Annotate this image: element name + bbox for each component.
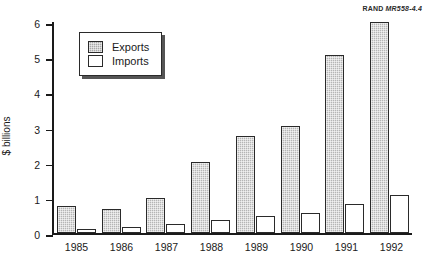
x-axis-label-1987: 1987 [144,241,189,253]
y-axis-tick-label: 2 [34,159,40,170]
y-axis-tick-label: 1 [34,195,40,206]
x-axis-labels: 19851986198719881989199019911992 [54,241,414,253]
bar-group [188,22,233,233]
bar-imports-1992 [390,195,409,233]
bar-imports-1988 [211,220,230,233]
bar-imports-1991 [345,204,364,233]
bar-exports-1987 [146,198,165,233]
bar-exports-1991 [325,55,344,233]
x-axis-label-1991: 1991 [324,241,369,253]
bar-group [367,22,412,233]
bar-imports-1985 [77,229,96,233]
bar-exports-1990 [281,126,300,233]
legend-label-imports: Imports [112,55,149,67]
x-axis-label-1986: 1986 [99,241,144,253]
x-axis-label-1988: 1988 [189,241,234,253]
legend-item-exports: Exports [88,41,149,53]
y-axis-tick: 5 [46,59,53,61]
y-axis-tick-label: 0 [34,230,40,241]
source-id: RAND MR558-4.4 [362,5,422,12]
bar-exports-1985 [57,206,76,233]
x-axis-label-1989: 1989 [234,241,279,253]
bar-exports-1989 [236,136,255,233]
bar-imports-1986 [122,227,141,233]
source-id-figure: MR558-4.4 [386,5,422,12]
bar-group [278,22,323,233]
y-axis-tick-label: 3 [34,124,40,135]
legend-item-imports: Imports [88,55,149,67]
bar-chart-figure: RAND MR558-4.4 $ billions 0123456 198519… [0,0,428,272]
legend-swatch-exports [88,41,103,53]
legend-swatch-imports [88,55,103,67]
y-axis-tick: 1 [46,200,53,202]
bar-exports-1988 [191,162,210,233]
x-axis-label-1992: 1992 [369,241,414,253]
y-axis-tick: 0 [46,235,53,237]
y-axis-tick: 4 [46,94,53,96]
bar-group [233,22,278,233]
source-id-prefix: RAND [362,5,383,12]
y-axis-tick-label: 4 [34,89,40,100]
y-axis-tick-label: 5 [34,54,40,65]
x-axis-label-1985: 1985 [54,241,99,253]
y-axis-tick: 3 [46,130,53,132]
bar-imports-1990 [301,213,320,233]
x-axis-line [52,233,412,235]
legend-label-exports: Exports [112,41,149,53]
chart-legend: Exports Imports [79,32,162,76]
bar-exports-1986 [102,209,121,233]
y-axis-tick: 6 [46,24,53,26]
bar-group [323,22,368,233]
y-axis-tick-label: 6 [34,19,40,30]
bar-exports-1992 [370,22,389,233]
y-axis-label: $ billions [1,117,12,156]
bar-imports-1987 [166,224,185,233]
bar-imports-1989 [256,216,275,233]
y-axis-tick: 2 [46,165,53,167]
x-axis-label-1990: 1990 [279,241,324,253]
